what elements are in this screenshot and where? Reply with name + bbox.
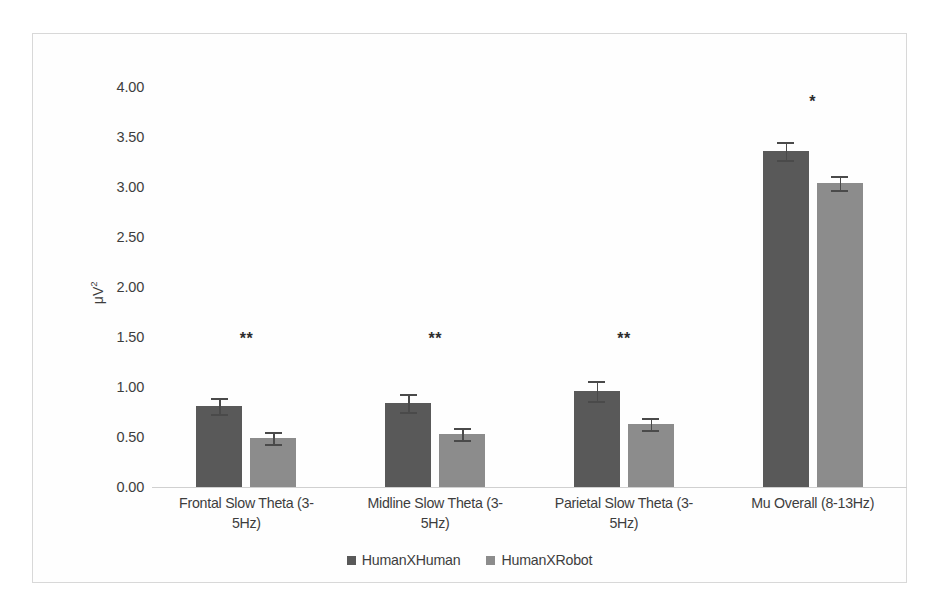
category-label-line: 5Hz): [341, 513, 530, 533]
error-bar-cap: [211, 414, 228, 416]
y-axis-tick-label: 3.00: [74, 179, 144, 195]
bar-0: [196, 406, 242, 487]
significance-marker: **: [428, 330, 441, 348]
legend-item: HumanXHuman: [347, 552, 461, 568]
y-axis-tick-label: 1.50: [74, 329, 144, 345]
category-label-line: Parietal Slow Theta (3-: [530, 493, 719, 513]
y-axis-tick-label: 1.00: [74, 379, 144, 395]
category-label: Parietal Slow Theta (3-5Hz): [530, 493, 719, 533]
error-bar-stem: [840, 176, 842, 190]
error-bar-stem: [462, 428, 464, 440]
chart-legend: HumanXHumanHumanXRobot: [33, 552, 906, 568]
error-bar-cap: [831, 190, 848, 192]
error-bar-cap: [454, 440, 471, 442]
error-bar-stem: [786, 142, 788, 160]
error-bar-cap: [642, 418, 659, 420]
x-axis-baseline: [152, 487, 907, 488]
error-bar-cap: [265, 432, 282, 434]
bar-1: [817, 183, 863, 487]
error-bar-stem: [597, 381, 599, 401]
error-bar-cap: [400, 394, 417, 396]
chart-figure: μV2 4.003.503.002.502.001.501.000.500.00…: [32, 33, 907, 583]
y-axis-tick-label: 3.50: [74, 129, 144, 145]
error-bar-cap: [400, 412, 417, 414]
significance-marker: *: [809, 93, 816, 111]
legend-item: HumanXRobot: [486, 552, 592, 568]
error-bar-cap: [777, 160, 794, 162]
bar-1: [439, 434, 485, 487]
significance-marker: **: [617, 330, 630, 348]
category-label: Mu Overall (8-13Hz): [718, 493, 907, 513]
error-bar-cap: [211, 398, 228, 400]
y-axis-tick-label: 4.00: [74, 79, 144, 95]
y-axis-tick-label: 0.00: [74, 479, 144, 495]
error-bar-cap: [777, 142, 794, 144]
category-label-line: Frontal Slow Theta (3-: [152, 493, 341, 513]
bar-1: [628, 424, 674, 487]
category-label-line: Midline Slow Theta (3-: [341, 493, 530, 513]
y-axis-tick-label: 0.50: [74, 429, 144, 445]
bar-0: [385, 403, 431, 487]
bar-0: [574, 391, 620, 487]
bar-0: [763, 151, 809, 487]
category-label-line: Mu Overall (8-13Hz): [718, 493, 907, 513]
y-axis-tick-label: 2.50: [74, 229, 144, 245]
category-label-line: 5Hz): [152, 513, 341, 533]
error-bar-stem: [273, 432, 275, 444]
category-label: Frontal Slow Theta (3-5Hz): [152, 493, 341, 533]
error-bar-cap: [588, 381, 605, 383]
category-label-line: 5Hz): [530, 513, 719, 533]
legend-swatch-icon: [486, 556, 495, 565]
error-bar-cap: [642, 430, 659, 432]
category-label: Midline Slow Theta (3-5Hz): [341, 493, 530, 533]
error-bar-cap: [454, 428, 471, 430]
error-bar-cap: [588, 401, 605, 403]
error-bar-stem: [219, 398, 221, 414]
legend-label: HumanXHuman: [362, 552, 461, 568]
error-bar-stem: [408, 394, 410, 412]
error-bar-cap: [265, 444, 282, 446]
error-bar-stem: [651, 418, 653, 430]
error-bar-cap: [831, 176, 848, 178]
legend-label: HumanXRobot: [501, 552, 592, 568]
y-axis-tick-label: 2.00: [74, 279, 144, 295]
significance-marker: **: [240, 330, 253, 348]
legend-swatch-icon: [347, 556, 356, 565]
